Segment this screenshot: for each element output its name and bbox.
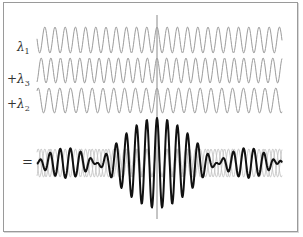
wave-canvas	[0, 0, 303, 237]
label-equals: =	[22, 156, 33, 168]
component-wave-3	[37, 88, 282, 113]
label-lambda-3: +λ3	[7, 73, 30, 90]
label-symbol: λ	[17, 97, 25, 111]
label-lambda-1: λ1	[17, 41, 30, 58]
component-waves	[37, 27, 282, 113]
component-wave-1	[37, 27, 282, 53]
label-prefix: +	[7, 72, 17, 86]
wave-superposition-figure: λ1 +λ3 +λ2 =	[0, 0, 303, 237]
label-subscript: 2	[25, 104, 30, 113]
label-lambda-2: +λ2	[7, 98, 30, 115]
component-wave-2	[37, 58, 282, 83]
label-subscript: 1	[25, 47, 30, 56]
label-symbol: λ	[17, 40, 25, 54]
label-subscript: 3	[25, 79, 30, 88]
label-prefix: +	[7, 97, 17, 111]
sum-wave	[37, 118, 282, 207]
label-symbol: λ	[17, 72, 25, 86]
